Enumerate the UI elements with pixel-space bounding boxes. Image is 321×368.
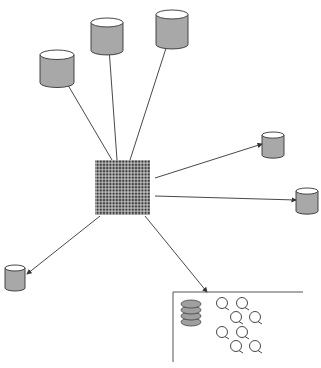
network-diagram [0,0,321,368]
loop-node-icon [250,341,263,354]
arrow [145,216,207,292]
arrow [155,144,262,178]
cluster-panel [173,292,303,362]
loop-node-icon [237,298,250,311]
loop-node-icon [231,312,244,325]
arrow [155,196,296,200]
loop-node-icon [237,327,250,340]
database-cylinder-icon [40,50,74,88]
loop-node-icon [217,298,230,311]
arrow [27,216,100,274]
database-cylinder-icon [262,132,284,158]
loop-node-icon [231,341,244,354]
cylinders-layer [5,10,318,291]
database-cylinder-icon [296,188,318,214]
ellipse-stack-icon [181,300,201,326]
arrow [130,42,168,160]
arrow [65,80,112,160]
arrow [109,48,117,160]
database-cylinder-icon [156,10,188,49]
loop-node-icon [217,327,230,340]
database-cylinder-icon [91,18,123,55]
loop-node-icon [250,312,263,325]
database-cylinder-icon [5,265,25,291]
hub-node [95,160,150,215]
